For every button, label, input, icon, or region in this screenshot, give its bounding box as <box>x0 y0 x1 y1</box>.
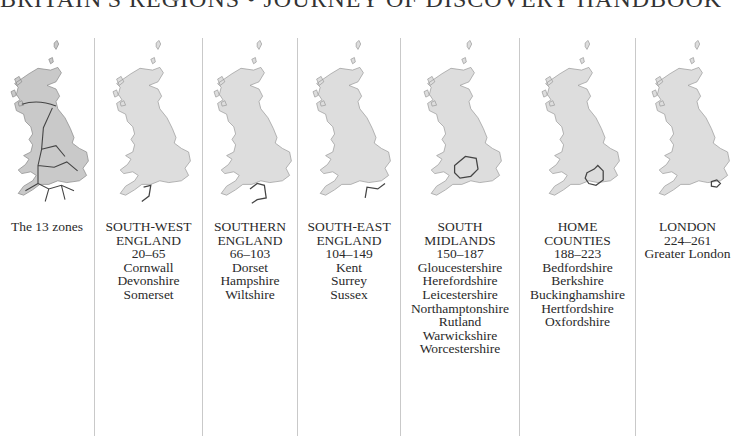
county-name: Bedfordshire <box>520 261 635 275</box>
county-name: Somerset <box>95 288 202 302</box>
county-name: Sussex <box>298 288 400 302</box>
region-name: SOUTH <box>401 220 519 234</box>
region-name: SOUTHERN <box>203 220 297 234</box>
region-name: LONDON <box>636 220 739 234</box>
county-name: Oxfordshire <box>520 315 635 329</box>
page-range: 66–103 <box>203 247 297 261</box>
panel-caption: SOUTH-WEST ENGLAND 20–65 Cornwall Devons… <box>95 220 202 302</box>
county-name: Herefordshire <box>401 274 519 288</box>
panel-caption: LONDON 224–261 Greater London <box>636 220 739 261</box>
county-name: Northamptonshire <box>401 302 519 316</box>
county-name: Leicestershire <box>401 288 519 302</box>
county-name: Worcestershire <box>401 342 519 356</box>
zone-panel-overview: The 13 zones <box>0 36 94 234</box>
zone-panel-southern: SOUTHERN ENGLAND 66–103 Dorset Hampshire… <box>203 36 297 302</box>
region-name: HOME <box>520 220 635 234</box>
uk-map-southern-highlight <box>205 36 295 214</box>
county-name: Rutland <box>401 315 519 329</box>
uk-map-south-midlands-highlight <box>415 36 505 214</box>
county-name: Cornwall <box>95 261 202 275</box>
county-name: Warwickshire <box>401 329 519 343</box>
county-name: Devonshire <box>95 274 202 288</box>
page-range: 104–149 <box>298 247 400 261</box>
county-name: Hampshire <box>203 274 297 288</box>
zone-panel-home-counties: HOME COUNTIES 188–223 Bedfordshire Berks… <box>520 36 635 329</box>
page-header-title: BRITAIN'S REGIONS • JOURNEY OF DISCOVERY… <box>0 0 739 10</box>
panel-caption: The 13 zones <box>0 220 94 234</box>
page-range: 20–65 <box>95 247 202 261</box>
region-name: COUNTIES <box>520 234 635 248</box>
uk-map-london-highlight <box>643 36 733 214</box>
panel-caption: SOUTHERN ENGLAND 66–103 Dorset Hampshire… <box>203 220 297 302</box>
zone-panel-south-midlands: SOUTH MIDLANDS 150–187 Gloucestershire H… <box>401 36 519 356</box>
panel-caption: SOUTH MIDLANDS 150–187 Gloucestershire H… <box>401 220 519 356</box>
county-name: Berkshire <box>520 274 635 288</box>
page-range: 188–223 <box>520 247 635 261</box>
county-name: Dorset <box>203 261 297 275</box>
region-name: MIDLANDS <box>401 234 519 248</box>
region-name: ENGLAND <box>298 234 400 248</box>
zone-panel-south-west: SOUTH-WEST ENGLAND 20–65 Cornwall Devons… <box>95 36 202 302</box>
region-name: ENGLAND <box>95 234 202 248</box>
county-name: Hertfordshire <box>520 302 635 316</box>
uk-map-13-zones <box>2 36 92 214</box>
county-name: Greater London <box>636 247 739 261</box>
zone-panel-south-east: SOUTH-EAST ENGLAND 104–149 Kent Surrey S… <box>298 36 400 302</box>
caption-line: The 13 zones <box>0 220 94 234</box>
uk-map-south-west-highlight <box>104 36 194 214</box>
county-name: Wiltshire <box>203 288 297 302</box>
page-range: 150–187 <box>401 247 519 261</box>
uk-map-south-east-highlight <box>304 36 394 214</box>
county-name: Gloucestershire <box>401 261 519 275</box>
panel-caption: SOUTH-EAST ENGLAND 104–149 Kent Surrey S… <box>298 220 400 302</box>
county-name: Surrey <box>298 274 400 288</box>
zone-panel-london: LONDON 224–261 Greater London <box>636 36 739 261</box>
page-range: 224–261 <box>636 234 739 248</box>
county-name: Kent <box>298 261 400 275</box>
uk-map-home-counties-highlight <box>533 36 623 214</box>
region-name: SOUTH-EAST <box>298 220 400 234</box>
region-name: SOUTH-WEST <box>95 220 202 234</box>
county-name: Buckinghamshire <box>520 288 635 302</box>
region-name: ENGLAND <box>203 234 297 248</box>
panel-caption: HOME COUNTIES 188–223 Bedfordshire Berks… <box>520 220 635 329</box>
